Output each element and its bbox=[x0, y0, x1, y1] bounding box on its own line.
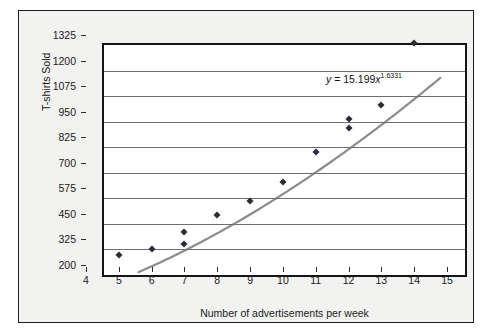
gridline bbox=[104, 224, 465, 225]
gridline bbox=[104, 173, 465, 174]
x-tick-mark bbox=[349, 267, 350, 272]
plot-inner bbox=[104, 45, 465, 275]
y-tick-label: 1200 bbox=[19, 56, 76, 66]
x-tick-label: 10 bbox=[268, 274, 298, 286]
plot-area bbox=[102, 43, 467, 277]
chart-figure: T-shirts Sold y = 15.199x1.6331 Number o… bbox=[0, 0, 492, 333]
gridline bbox=[104, 96, 465, 97]
x-tick-mark bbox=[250, 267, 251, 272]
y-tick-mark bbox=[81, 61, 86, 62]
y-tick-label: 825 bbox=[19, 132, 76, 142]
x-tick-label: 6 bbox=[137, 274, 167, 286]
y-tick-label: 325 bbox=[19, 234, 76, 244]
gridline bbox=[104, 198, 465, 199]
x-tick-label: 4 bbox=[71, 274, 101, 286]
gridline bbox=[104, 249, 465, 250]
x-tick-mark bbox=[152, 267, 153, 272]
y-tick-mark bbox=[81, 137, 86, 138]
equation-exponent: 1.6331 bbox=[381, 72, 402, 79]
y-tick-label: 1075 bbox=[19, 81, 76, 91]
x-tick-mark bbox=[86, 267, 87, 272]
y-tick-mark bbox=[81, 86, 86, 87]
x-tick-label: 12 bbox=[334, 274, 364, 286]
x-tick-label: 9 bbox=[235, 274, 265, 286]
x-tick-mark bbox=[119, 267, 120, 272]
x-tick-label: 13 bbox=[366, 274, 396, 286]
x-tick-mark bbox=[184, 267, 185, 272]
x-tick-label: 11 bbox=[301, 274, 331, 286]
chart-card-frame: T-shirts Sold y = 15.199x1.6331 Number o… bbox=[18, 10, 474, 323]
x-tick-label: 15 bbox=[432, 274, 462, 286]
x-axis-title: Number of advertisements per week bbox=[102, 307, 467, 319]
x-tick-label: 7 bbox=[169, 274, 199, 286]
x-tick-label: 8 bbox=[202, 274, 232, 286]
gridline bbox=[104, 71, 465, 72]
y-tick-mark bbox=[81, 188, 86, 189]
equation-equals: = bbox=[331, 73, 343, 85]
x-tick-label: 14 bbox=[399, 274, 429, 286]
y-tick-mark bbox=[81, 265, 86, 266]
trendline-curve bbox=[104, 45, 465, 275]
x-tick-mark bbox=[381, 267, 382, 272]
y-tick-mark bbox=[81, 112, 86, 113]
y-tick-label: 450 bbox=[19, 209, 76, 219]
x-tick-mark bbox=[316, 267, 317, 272]
equation-coefficient: 15.199 bbox=[343, 73, 375, 85]
x-tick-mark bbox=[414, 267, 415, 272]
y-tick-label: 575 bbox=[19, 183, 76, 193]
x-tick-mark bbox=[217, 267, 218, 272]
gridline bbox=[104, 147, 465, 148]
trendline-equation-label: y = 15.199x1.6331 bbox=[326, 72, 402, 85]
gridline bbox=[104, 122, 465, 123]
y-tick-label: 1325 bbox=[19, 30, 76, 40]
y-tick-label: 200 bbox=[19, 260, 76, 270]
x-tick-mark bbox=[283, 267, 284, 272]
x-tick-mark bbox=[447, 267, 448, 272]
y-tick-label: 700 bbox=[19, 158, 76, 168]
y-tick-mark bbox=[81, 239, 86, 240]
y-tick-label: 950 bbox=[19, 107, 76, 117]
y-tick-mark bbox=[81, 35, 86, 36]
y-tick-mark bbox=[81, 214, 86, 215]
y-tick-mark bbox=[81, 163, 86, 164]
x-tick-label: 5 bbox=[104, 274, 134, 286]
